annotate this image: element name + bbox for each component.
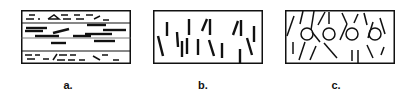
panel-a-drawing bbox=[21, 10, 131, 64]
panel-c-drawing bbox=[285, 10, 395, 64]
panel-b-label: b. bbox=[193, 79, 213, 91]
panel-c-label: c. bbox=[326, 79, 346, 91]
composite-structure-figure: a. b. c. bbox=[0, 0, 414, 96]
panel-b-drawing bbox=[153, 10, 263, 64]
panel-c-mixed-structure bbox=[285, 10, 395, 64]
panel-a-layered-structure bbox=[21, 10, 131, 64]
panel-b-aligned-rods bbox=[153, 10, 263, 64]
panel-a-label: a. bbox=[58, 79, 78, 91]
